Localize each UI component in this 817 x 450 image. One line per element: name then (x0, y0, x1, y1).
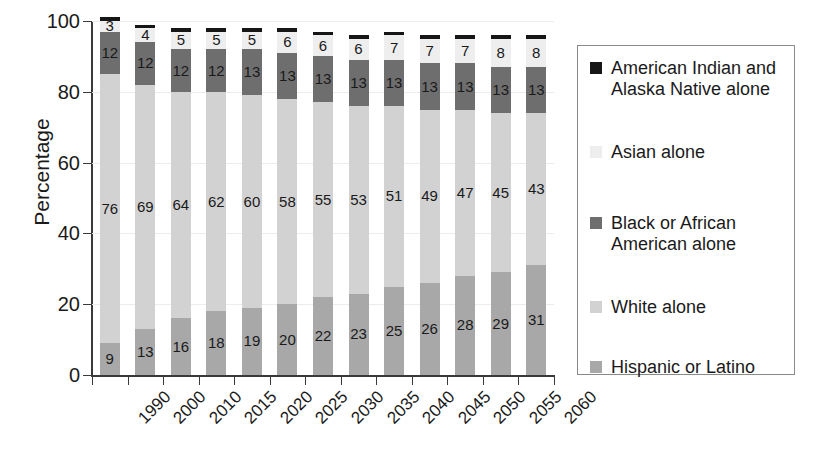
bar-segment[interactable] (100, 17, 120, 21)
bar-segment[interactable] (420, 283, 440, 375)
bars-layer: 9761231369124166412518621251960135205813… (92, 21, 554, 375)
legend-item-label: Hispanic or Latino (611, 357, 755, 378)
legend-item[interactable]: White alone (590, 297, 790, 318)
bar-group[interactable]: 2255136 (313, 21, 333, 375)
x-tick-label: 2010 (206, 388, 245, 427)
bar-segment[interactable] (491, 272, 511, 375)
bar-segment[interactable] (206, 28, 226, 32)
x-tick-mark (163, 376, 164, 385)
legend-swatch-icon (590, 217, 602, 229)
bar-segment[interactable] (135, 25, 155, 29)
bar-segment[interactable] (526, 67, 546, 113)
legend-item[interactable]: Asian alone (590, 142, 790, 163)
bar-segment[interactable] (384, 60, 404, 106)
bar-segment[interactable] (313, 297, 333, 375)
bar-segment[interactable] (171, 32, 191, 50)
x-tick-mark (376, 376, 377, 385)
bar-segment[interactable] (349, 39, 369, 60)
bar-segment[interactable] (313, 35, 333, 56)
bar-group[interactable]: 1664125 (171, 21, 191, 375)
bar-segment[interactable] (242, 308, 262, 375)
bar-group[interactable]: 2847137 (455, 21, 475, 375)
bar-group[interactable]: 3143138 (526, 21, 546, 375)
legend-item[interactable]: American Indian and Alaska Native alone (590, 58, 790, 100)
bar-segment[interactable] (135, 28, 155, 42)
bar-segment[interactable] (384, 35, 404, 60)
bar-segment[interactable] (384, 106, 404, 287)
bar-segment[interactable] (526, 39, 546, 67)
bar-segment[interactable] (277, 28, 297, 32)
bar-segment[interactable] (242, 28, 262, 32)
bar-segment[interactable] (384, 287, 404, 376)
bar-group[interactable]: 1369124 (135, 21, 155, 375)
bar-segment[interactable] (455, 63, 475, 109)
bar-segment[interactable] (171, 318, 191, 375)
bar-segment[interactable] (135, 329, 155, 375)
x-tick-mark (305, 376, 306, 385)
bar-segment[interactable] (242, 95, 262, 307)
bar-group[interactable]: 976123 (100, 21, 120, 375)
x-tick-mark (554, 376, 555, 385)
bar-segment[interactable] (171, 49, 191, 91)
bar-group[interactable]: 1862125 (206, 21, 226, 375)
bar-segment[interactable] (277, 53, 297, 99)
bar-segment[interactable] (206, 32, 226, 50)
x-tick-label: 2025 (313, 388, 352, 427)
bar-segment[interactable] (206, 311, 226, 375)
legend-swatch-icon (590, 146, 602, 158)
bar-segment[interactable] (171, 92, 191, 319)
bar-group[interactable]: 2551137 (384, 21, 404, 375)
bar-segment[interactable] (277, 304, 297, 375)
x-tick-label: 2045 (455, 388, 494, 427)
bar-segment[interactable] (455, 110, 475, 276)
y-tick-mark (83, 375, 92, 376)
bar-segment[interactable] (313, 32, 333, 36)
bar-segment[interactable] (100, 74, 120, 343)
bar-segment[interactable] (135, 42, 155, 84)
bar-segment[interactable] (313, 102, 333, 297)
bar-segment[interactable] (349, 60, 369, 106)
bar-segment[interactable] (349, 106, 369, 294)
bar-segment[interactable] (455, 39, 475, 64)
legend-item[interactable]: Black or African American alone (590, 213, 790, 255)
bar-group[interactable]: 2945138 (491, 21, 511, 375)
bar-segment[interactable] (277, 99, 297, 304)
bar-segment[interactable] (242, 32, 262, 50)
bar-group[interactable]: 1960135 (242, 21, 262, 375)
bar-segment[interactable] (206, 49, 226, 91)
bar-segment[interactable] (420, 39, 440, 64)
bar-segment[interactable] (277, 32, 297, 53)
bar-segment[interactable] (526, 35, 546, 39)
bar-segment[interactable] (491, 35, 511, 39)
legend-item[interactable]: Hispanic or Latino (590, 357, 790, 378)
bar-segment[interactable] (526, 265, 546, 375)
bar-segment[interactable] (420, 110, 440, 283)
y-tick-label: 40 (28, 223, 80, 243)
bar-group[interactable]: 2058136 (277, 21, 297, 375)
bar-segment[interactable] (491, 39, 511, 67)
bar-segment[interactable] (171, 28, 191, 32)
bar-segment[interactable] (455, 35, 475, 39)
bar-segment[interactable] (349, 35, 369, 39)
bar-group[interactable]: 2649137 (420, 21, 440, 375)
bar-segment[interactable] (100, 32, 120, 74)
bar-segment[interactable] (526, 113, 546, 265)
bar-segment[interactable] (491, 113, 511, 272)
bar-segment[interactable] (491, 67, 511, 113)
bar-segment[interactable] (420, 63, 440, 109)
x-tick-mark (128, 376, 129, 385)
bar-segment[interactable] (384, 32, 404, 36)
bar-segment[interactable] (242, 49, 262, 95)
bar-segment[interactable] (420, 35, 440, 39)
bar-segment[interactable] (455, 276, 475, 375)
x-tick-mark (92, 376, 93, 385)
bar-group[interactable]: 2353136 (349, 21, 369, 375)
bar-segment[interactable] (100, 343, 120, 375)
x-tick-mark (518, 376, 519, 385)
bar-segment[interactable] (100, 21, 120, 32)
bar-segment[interactable] (349, 294, 369, 375)
y-tick-mark (83, 163, 92, 164)
bar-segment[interactable] (135, 85, 155, 329)
bar-segment[interactable] (206, 92, 226, 311)
bar-segment[interactable] (313, 56, 333, 102)
